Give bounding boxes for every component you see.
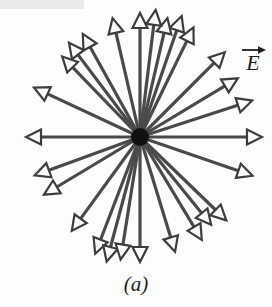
field-line-arrowhead — [34, 87, 51, 101]
field-line-arrowhead — [170, 16, 184, 33]
field-line-arrowhead — [236, 164, 253, 178]
field-line-arrowhead — [236, 98, 253, 112]
field-vector-label: E — [238, 44, 268, 78]
field-line-arrowhead — [109, 18, 124, 34]
field-line-arrowhead — [72, 214, 87, 231]
figure-caption: (a) — [0, 272, 272, 297]
field-line-arrowhead — [26, 130, 41, 145]
field-lines-diagram — [0, 0, 272, 307]
field-line-arrowhead — [221, 78, 238, 92]
electric-field-figure: E (a) — [0, 0, 272, 307]
field-line-arrowhead — [44, 181, 61, 195]
field-line-arrowhead — [35, 163, 52, 177]
point-charge-dot — [131, 128, 149, 146]
field-line-shaft — [45, 93, 140, 137]
field-line-shaft — [100, 137, 141, 242]
field-line-arrowhead — [247, 130, 262, 145]
field-line-arrowhead — [133, 13, 148, 28]
field-line-arrowhead — [116, 243, 131, 259]
field-line-arrowhead — [164, 235, 178, 252]
field-line-arrowhead — [103, 245, 117, 261]
vector-arrow-icon — [241, 44, 267, 56]
field-line-arrowhead — [69, 43, 84, 59]
field-line-arrowhead — [83, 34, 97, 51]
field-line-arrowhead — [146, 10, 161, 26]
field-line-arrowhead — [133, 247, 148, 262]
field-line-arrowhead — [188, 223, 202, 240]
field-vector-letter: E — [238, 53, 268, 73]
